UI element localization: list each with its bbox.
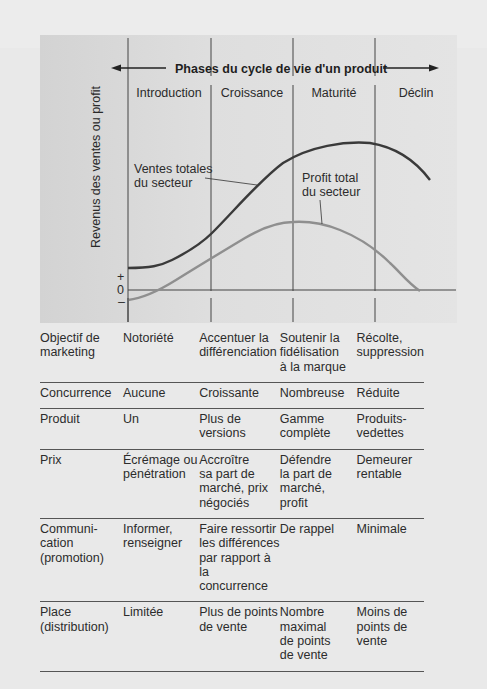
table-cell: Soutenir lafidélisationà la marque bbox=[280, 328, 357, 382]
row-label-line: Concurrence bbox=[40, 386, 123, 400]
table-cell: Limitée bbox=[123, 602, 199, 671]
table-cell: Plus deversions bbox=[199, 409, 280, 450]
row-label-line: Communi- bbox=[40, 522, 123, 536]
table-cell-line: sa part de bbox=[199, 467, 280, 481]
table-cell: Notoriété bbox=[123, 328, 199, 382]
arrow-right-icon bbox=[383, 65, 439, 72]
table-cell-line: Défendre bbox=[280, 453, 357, 467]
row-label: Concurrence bbox=[40, 382, 123, 408]
table-cell-line: Croissante bbox=[199, 386, 280, 400]
table-cell-line: rentable bbox=[357, 467, 424, 481]
table-cell: De rappel bbox=[280, 518, 357, 601]
table-cell-line: différenciation bbox=[199, 345, 280, 359]
row-label-line: Objectif de bbox=[40, 331, 123, 345]
phase-maturite: Maturité bbox=[293, 86, 375, 100]
table-cell-line: complète bbox=[280, 426, 357, 440]
table-cell: Accroîtresa part demarché, prixnégociés bbox=[199, 449, 280, 518]
table-cell: Un bbox=[123, 409, 199, 450]
table-cell-line: par rapport à bbox=[199, 551, 280, 565]
profit-annotation-line2: du secteur bbox=[302, 185, 360, 199]
table-cell-line: vedettes bbox=[357, 426, 424, 440]
table-cell: Écrémage oupénétration bbox=[123, 449, 199, 518]
row-label: Objectif demarketing bbox=[40, 328, 123, 382]
row-label-line: Place bbox=[40, 605, 123, 619]
table-cell-line: points de bbox=[357, 620, 424, 634]
table-cell: Nombreuse bbox=[280, 382, 357, 408]
sales-annotation-line2: du secteur bbox=[134, 176, 213, 190]
row-label-line: cation bbox=[40, 536, 123, 550]
table-cell-line: Gamme bbox=[280, 412, 357, 426]
table-cell: Plus de pointsde vente bbox=[199, 602, 280, 671]
table-cell-line: De rappel bbox=[280, 522, 357, 536]
row-label: Place(distribution) bbox=[40, 602, 123, 671]
table-cell-line: Récolte, bbox=[357, 331, 424, 345]
table-cell-line: profit bbox=[280, 496, 357, 510]
row-label-line: (promotion) bbox=[40, 551, 123, 565]
table-cell-line: Moins de bbox=[357, 605, 424, 619]
arrow-left-icon bbox=[111, 65, 166, 72]
phase-declin: Déclin bbox=[375, 86, 457, 100]
row-label: Prix bbox=[40, 449, 123, 518]
table-cell-line: Demeurer bbox=[357, 453, 424, 467]
table-cell: Informer,renseigner bbox=[123, 518, 199, 601]
table-cell-line: Un bbox=[123, 412, 199, 426]
row-label: Communi-cation(promotion) bbox=[40, 518, 123, 601]
sales-annotation-line1: Ventes totales bbox=[134, 162, 213, 176]
table-cell-line: Limitée bbox=[123, 605, 199, 619]
phase-introduction: Introduction bbox=[128, 86, 210, 100]
marketing-strategy-table: Objectif demarketingNotoriétéAccentuer l… bbox=[40, 328, 424, 672]
table-cell-line: Minimale bbox=[357, 522, 424, 536]
table-row: ConcurrenceAucuneCroissanteNombreuseRédu… bbox=[40, 382, 424, 408]
row-label-line: Produit bbox=[40, 412, 123, 426]
table-row: PrixÉcrémage oupénétrationAccroîtresa pa… bbox=[40, 449, 424, 518]
table-cell-line: suppression bbox=[357, 345, 424, 359]
table-cell: Réduite bbox=[357, 382, 424, 408]
table-row: ProduitUnPlus deversionsGammecomplètePro… bbox=[40, 409, 424, 450]
table-cell-line: Soutenir la bbox=[280, 331, 357, 345]
table-cell: Minimale bbox=[357, 518, 424, 601]
table-cell-line: Accroître bbox=[199, 453, 280, 467]
table-cell-line: la concurrence bbox=[199, 565, 280, 594]
table-cell-line: de points bbox=[280, 634, 357, 648]
row-label-line: marketing bbox=[40, 345, 123, 359]
row-label-line: Prix bbox=[40, 453, 123, 467]
table-cell: Défendrela part demarché,profit bbox=[280, 449, 357, 518]
table-cell-line: Réduite bbox=[357, 386, 424, 400]
sales-annotation: Ventes totales du secteur bbox=[134, 162, 213, 190]
table-cell-line: Aucune bbox=[123, 386, 199, 400]
table-cell-line: Faire ressortir bbox=[199, 522, 280, 536]
table-cell-line: Écrémage ou bbox=[123, 453, 199, 467]
row-label: Produit bbox=[40, 409, 123, 450]
table-cell-line: maximal bbox=[280, 620, 357, 634]
profit-annotation: Profit total du secteur bbox=[302, 171, 360, 199]
table-cell-line: Nombre bbox=[280, 605, 357, 619]
table-cell-line: Produits- bbox=[357, 412, 424, 426]
table-cell: Demeurerrentable bbox=[357, 449, 424, 518]
table-cell-line: Notoriété bbox=[123, 331, 199, 345]
table-cell: Récolte,suppression bbox=[357, 328, 424, 382]
table-cell-line: négociés bbox=[199, 496, 280, 510]
table-cell-line: vente bbox=[357, 634, 424, 648]
table-cell: Produits-vedettes bbox=[357, 409, 424, 450]
table-cell-line: de vente bbox=[199, 620, 280, 634]
table-cell: Accentuer ladifférenciation bbox=[199, 328, 280, 382]
table-cell: Aucune bbox=[123, 382, 199, 408]
table-cell-line: Informer, bbox=[123, 522, 199, 536]
table-row: Place(distribution)LimitéePlus de points… bbox=[40, 602, 424, 671]
table-cell-line: les différences bbox=[199, 536, 280, 550]
axis-minus: – bbox=[118, 295, 125, 309]
table-cell-line: renseigner bbox=[123, 536, 199, 550]
table-cell-line: la part de bbox=[280, 467, 357, 481]
table-cell-line: à la marque bbox=[280, 360, 357, 374]
table-cell-line: marché, prix bbox=[199, 481, 280, 495]
table-cell: Gammecomplète bbox=[280, 409, 357, 450]
axis-plus: + bbox=[117, 270, 124, 284]
table-cell-line: de vente bbox=[280, 648, 357, 662]
chart-title: Phases du cycle de vie d'un produit bbox=[175, 62, 387, 76]
sales-leader-line bbox=[205, 178, 257, 185]
table-cell-line: pénétration bbox=[123, 467, 199, 481]
table-cell: Nombremaximalde pointsde vente bbox=[280, 602, 357, 671]
phase-croissance: Croissance bbox=[211, 86, 293, 100]
table-row: Objectif demarketingNotoriétéAccentuer l… bbox=[40, 328, 424, 382]
table-cell-line: Accentuer la bbox=[199, 331, 280, 345]
